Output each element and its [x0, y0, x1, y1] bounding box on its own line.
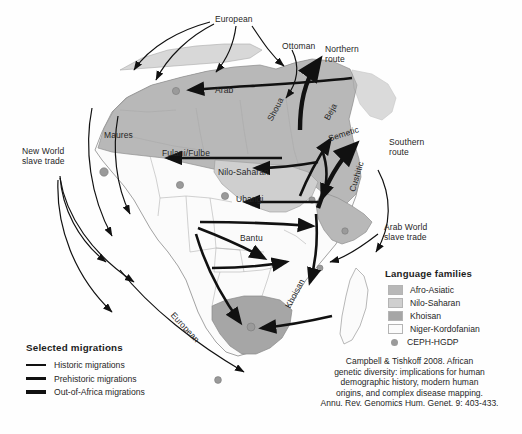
- legend-label-niger-kordofanian: Niger-Kordofanian: [410, 324, 480, 334]
- line-sample-out-of-africa: [26, 390, 46, 394]
- selected-migrations-legend: Selected migrations Historic migrations …: [26, 342, 226, 400]
- citation-line-5: Annu. Rev. Genomics Hum. Genet. 9: 403-4…: [302, 398, 517, 409]
- arabia-shape: [352, 70, 396, 120]
- europe-shape: [120, 44, 262, 70]
- map-label-ubangi: Ubangi: [236, 194, 264, 204]
- map-label-ottoman: Ottoman: [282, 41, 315, 51]
- citation-line-2: genetic diversity: implications for huma…: [302, 367, 517, 378]
- map-label-new-world-slave-trade: New World slave trade: [22, 146, 65, 166]
- legend-label-prehistoric-migrations: Prehistoric migrations: [54, 374, 137, 384]
- map-label-maures: Maures: [104, 130, 133, 140]
- arrow-new-world-1: [60, 176, 106, 262]
- citation-line-1: Campbell & Tishkoff 2008. African: [302, 356, 517, 367]
- line-sample-historic: [26, 364, 46, 366]
- legend-label-historic-migrations: Historic migrations: [54, 360, 125, 370]
- swatch-khoisan: [388, 311, 403, 321]
- map-label-bantu: Bantu: [240, 233, 263, 243]
- map-label-southern-route: Southern route: [389, 137, 424, 157]
- legend-item-out-of-africa-migrations: Out-of-Africa migrations: [26, 386, 226, 398]
- arrow-new-world-2: [60, 178, 134, 282]
- swatch-afro-asiatic: [388, 285, 403, 295]
- legend-item-prehistoric-migrations: Prehistoric migrations: [26, 373, 226, 385]
- figure-canvas: European Ottoman Northern route Arab Mau…: [0, 0, 522, 434]
- map-label-fulani-fulbe: Fulani/Fulbe: [162, 148, 210, 158]
- citation-line-4: origins, and complex disease mapping.: [302, 388, 517, 399]
- legend-label-afro-asiatic: Afro-Asiatic: [410, 285, 454, 295]
- landmass-group: [95, 44, 396, 383]
- legend-item-nilo-saharan: Nilo-Saharan: [383, 297, 519, 309]
- language-families-legend: Language families Afro-Asiatic Nilo-Saha…: [383, 268, 519, 349]
- legend-label-khoisan: Khoisan: [410, 311, 441, 321]
- swatch-nilo-saharan: [388, 298, 403, 308]
- map-label-arab-world-slave-trade: Arab World slave trade: [384, 222, 427, 242]
- swatch-niger-kordofanian: [388, 324, 403, 334]
- map-label-european-top: European: [215, 14, 253, 24]
- legend-item-niger-kordofanian: Niger-Kordofanian: [383, 323, 519, 335]
- legend-item-afro-asiatic: Afro-Asiatic: [383, 284, 519, 296]
- ceph-hgdp-dot-icon: [391, 339, 398, 346]
- legend-label-ceph-hgdp: CEPH-HGDP: [407, 337, 459, 347]
- selected-migrations-title: Selected migrations: [26, 342, 226, 353]
- arrow-european-4: [252, 26, 284, 66]
- citation-block: Campbell & Tishkoff 2008. African geneti…: [302, 356, 517, 409]
- legend-label-out-of-africa-migrations: Out-of-Africa migrations: [54, 387, 145, 397]
- language-families-title: Language families: [385, 268, 519, 279]
- map-label-nilo-saharan: Nilo-Saharan: [218, 167, 269, 177]
- legend-item-historic-migrations: Historic migrations: [26, 359, 226, 371]
- legend-label-nilo-saharan: Nilo-Saharan: [410, 298, 460, 308]
- madagascar-shape: [340, 268, 368, 344]
- citation-line-3: demographic history, modern human: [302, 377, 517, 388]
- line-sample-prehistoric: [26, 377, 46, 380]
- map-label-arab: Arab: [215, 85, 233, 95]
- legend-item-ceph-hgdp: CEPH-HGDP: [383, 336, 519, 348]
- map-label-northern-route: Northern route: [325, 44, 359, 64]
- legend-item-khoisan: Khoisan: [383, 310, 519, 322]
